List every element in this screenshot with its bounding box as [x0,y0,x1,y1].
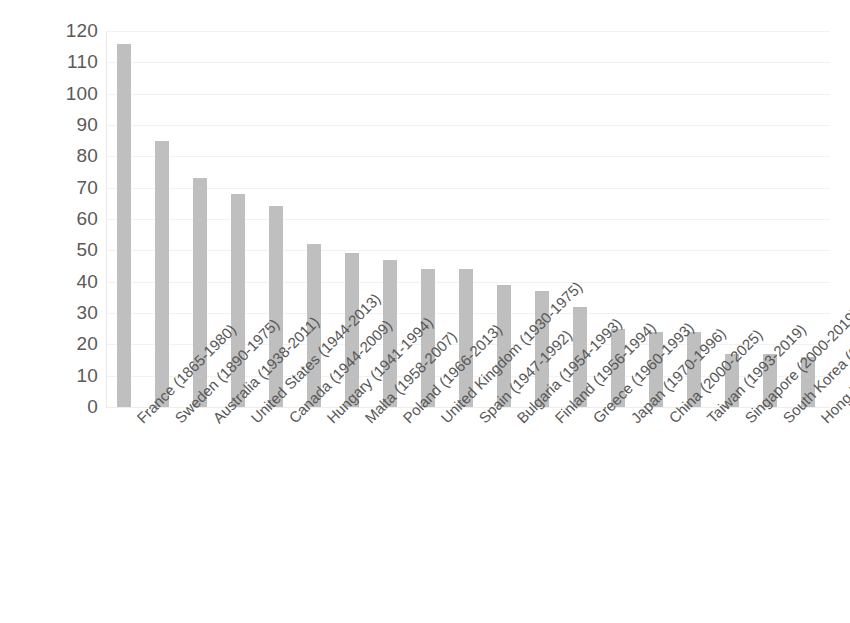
y-tick-label: 50 [52,240,98,259]
y-tick-label: 110 [52,52,98,71]
y-tick-label: 60 [52,209,98,228]
x-axis-label: Malta (1958-2007) [362,415,373,426]
bar[interactable] [155,141,169,407]
y-axis-tick-labels: 0102030405060708090100110120 [46,0,98,623]
x-axis-label: Spain (1947-1992) [476,415,487,426]
y-tick-label: 80 [52,146,98,165]
x-axis-label: United Kingdom (1930-1975) [438,415,449,426]
y-tick-label: 90 [52,115,98,134]
y-tick-label: 120 [52,21,98,40]
x-axis-label: Bulgaria (1954-1993) [514,415,525,426]
x-axis-label: Japan (1970-1996) [628,415,639,426]
x-axis-label: China (2000-2025) [666,415,677,426]
x-axis-label: United States (1944-2013) [248,415,259,426]
y-tick-label: 100 [52,84,98,103]
x-axis-label: Singapore (2000-2019) [742,415,753,426]
x-axis-label: Poland (1966-2013) [400,415,411,426]
y-tick-label: 40 [52,272,98,291]
bar[interactable] [117,44,131,407]
bar-chart: 0102030405060708090100110120 France (186… [0,0,850,623]
x-axis-label: Taiwan (1993-2019) [704,415,715,426]
bar-slot [145,31,183,407]
bar[interactable] [269,206,283,407]
y-tick-label: 0 [52,397,98,416]
x-axis-label: Hong Kong (1995-2013) [818,415,829,426]
x-axis-label: Australia (1938-2011) [210,415,221,426]
bar-slot [107,31,145,407]
x-axis-label: Canada (1944-2009) [286,415,297,426]
x-axis-label: Sweden (1890-1975) [172,415,183,426]
y-tick-label: 30 [52,303,98,322]
y-tick-label: 70 [52,178,98,197]
x-axis-label: France (1865-1980) [134,415,145,426]
y-tick-label: 10 [52,366,98,385]
x-axis-label: South Korea (2000-2019) [780,415,791,426]
x-axis-label: Finland (1956-1994) [552,415,563,426]
y-tick-label: 20 [52,334,98,353]
x-axis-label: Greece (1960-1993) [590,415,601,426]
x-axis-label: Hungary (1941-1994) [324,415,335,426]
